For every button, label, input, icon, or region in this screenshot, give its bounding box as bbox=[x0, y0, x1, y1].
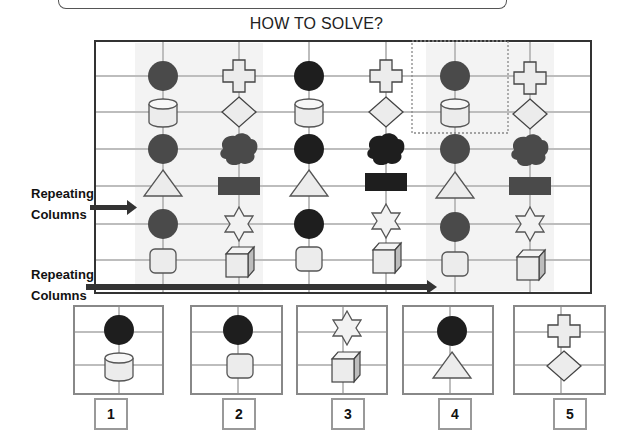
diamond-icon bbox=[369, 97, 403, 127]
rectangle-icon bbox=[218, 177, 260, 195]
option-4-figure bbox=[403, 306, 493, 394]
annotation-repeating-2: Repeating bbox=[31, 267, 94, 282]
dark-circle-icon bbox=[294, 209, 324, 239]
cube-icon bbox=[226, 247, 254, 277]
cube-icon bbox=[373, 243, 401, 273]
option-1-figure bbox=[74, 306, 163, 394]
dark-circle-icon bbox=[440, 61, 470, 91]
triangle-icon bbox=[290, 170, 328, 196]
rounded-square-icon bbox=[227, 354, 253, 378]
dark-circle-icon bbox=[440, 212, 470, 242]
star-icon bbox=[372, 204, 400, 238]
dark-circle-icon bbox=[223, 315, 253, 345]
option-2-button[interactable]: 2 bbox=[222, 398, 256, 430]
cube-icon bbox=[517, 250, 545, 280]
cylinder-icon bbox=[149, 99, 177, 127]
rectangle-icon bbox=[509, 177, 551, 195]
dark-circle-icon bbox=[294, 61, 324, 91]
dark-circle-icon bbox=[148, 61, 178, 91]
option-5-button[interactable]: 5 bbox=[553, 398, 587, 430]
rounded-square-icon bbox=[442, 252, 468, 276]
annotation-repeating-1: Repeating bbox=[31, 186, 94, 201]
annotation-columns-2: Columns bbox=[31, 288, 87, 303]
dark-circle-icon bbox=[440, 134, 470, 164]
puzzle-canvas bbox=[0, 0, 633, 439]
annotation-columns-1: Columns bbox=[31, 207, 87, 222]
cube-icon bbox=[332, 352, 360, 382]
dark-circle-icon bbox=[104, 315, 134, 345]
arrow-short-icon bbox=[90, 200, 137, 215]
dark-circle-icon bbox=[148, 209, 178, 239]
dark-circle-icon bbox=[148, 134, 178, 164]
cylinder-icon bbox=[441, 99, 469, 127]
cross-icon bbox=[370, 60, 402, 92]
dark-circle-icon bbox=[294, 134, 324, 164]
option-4-button[interactable]: 4 bbox=[438, 398, 472, 430]
option-2-figure bbox=[191, 306, 282, 394]
rounded-square-icon bbox=[296, 247, 322, 271]
cloud-icon bbox=[367, 133, 404, 165]
cylinder-icon bbox=[295, 99, 323, 127]
rectangle-icon bbox=[365, 173, 407, 191]
dark-circle-icon bbox=[437, 316, 467, 346]
option-5-figure bbox=[514, 306, 605, 394]
rounded-square-icon bbox=[150, 249, 176, 273]
option-1-button[interactable]: 1 bbox=[94, 398, 128, 430]
cylinder-icon bbox=[105, 353, 133, 381]
option-3-button[interactable]: 3 bbox=[331, 398, 365, 430]
option-3-figure bbox=[297, 306, 387, 394]
